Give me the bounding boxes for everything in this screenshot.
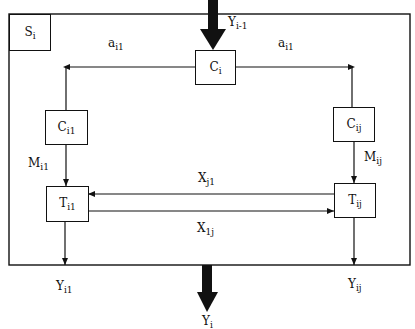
input-arrow <box>200 0 226 50</box>
edge-label-y-left: Yi1 <box>56 280 73 295</box>
edge-ci-to-ci1 <box>66 67 195 110</box>
node-cij: Cij <box>333 107 375 142</box>
output-arrow <box>197 265 218 312</box>
edge-label-a-left: ai1 <box>108 37 124 52</box>
edge-label-x-top: Xj1 <box>198 172 215 187</box>
edge-label-m-right: Mij <box>364 151 382 166</box>
input-label: Yi-1 <box>228 16 248 31</box>
node-ti1: Ti1 <box>46 186 89 222</box>
edge-label-x-bottom: X1j <box>197 222 214 237</box>
edge-label-a-right: ai1 <box>278 37 294 52</box>
output-label: Yi <box>202 315 213 329</box>
system-label-box: Si <box>9 14 51 51</box>
system-label: Si <box>24 25 35 41</box>
edge-ci-to-cij <box>235 67 352 107</box>
node-tij: Tij <box>334 183 376 218</box>
edge-label-y-right: Yij <box>348 278 362 293</box>
node-ci1: Ci1 <box>45 110 88 145</box>
edge-label-m-left: Mi1 <box>28 157 49 172</box>
node-ci: Ci <box>195 50 236 85</box>
